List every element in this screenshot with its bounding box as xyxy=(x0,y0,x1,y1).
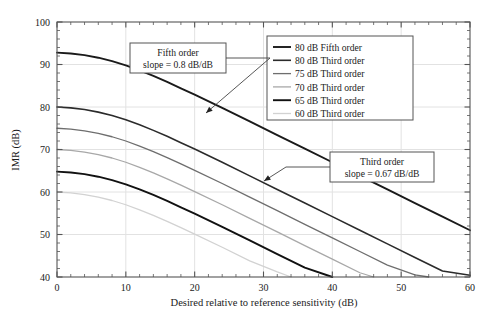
legend-label-5: 60 dB Third order xyxy=(295,108,365,119)
legend-label-3: 70 dB Third order xyxy=(295,82,365,93)
legend-label-0: 80 dB Fifth order xyxy=(295,42,363,53)
x-tick-label: 30 xyxy=(259,282,269,293)
x-tick-label: 20 xyxy=(190,282,200,293)
annotation-line-1: Fifth order xyxy=(157,47,199,58)
y-tick-label: 70 xyxy=(40,144,50,155)
x-tick-label: 50 xyxy=(396,282,406,293)
annotation-line-2: slope = 0.67 dB/dB xyxy=(345,168,420,179)
y-axis-title: IMR (dB) xyxy=(10,129,22,171)
annotation-line-1: Third order xyxy=(360,156,405,167)
imr-line-chart: 0102030405060405060708090100 Desired rel… xyxy=(0,0,498,315)
legend-label-1: 80 dB Third order xyxy=(295,55,365,66)
x-tick-label: 60 xyxy=(465,282,475,293)
x-tick-label: 10 xyxy=(121,282,131,293)
chart-legend: 80 dB Fifth order80 dB Third order75 dB … xyxy=(267,36,413,120)
x-axis-title: Desired relative to reference sensitivit… xyxy=(171,297,358,309)
legend-label-2: 75 dB Third order xyxy=(295,68,365,79)
y-tick-label: 100 xyxy=(35,17,50,28)
x-tick-label: 0 xyxy=(55,282,60,293)
y-tick-label: 80 xyxy=(40,102,50,113)
x-tick-label: 40 xyxy=(327,282,337,293)
y-tick-label: 40 xyxy=(40,272,50,283)
legend-label-4: 65 dB Third order xyxy=(295,95,365,106)
y-tick-label: 90 xyxy=(40,59,50,70)
y-tick-label: 60 xyxy=(40,187,50,198)
chart-container: 0102030405060405060708090100 Desired rel… xyxy=(0,0,498,315)
y-tick-label: 50 xyxy=(40,229,50,240)
annotation-line-2: slope = 0.8 dB/dB xyxy=(143,59,213,70)
